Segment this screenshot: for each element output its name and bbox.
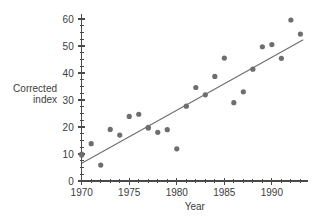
x-axis-tick-labels: 19701975198019851990 (71, 187, 284, 198)
x-tick-label: 1975 (118, 187, 141, 198)
data-point (127, 114, 132, 119)
x-tick-label: 1970 (71, 187, 94, 198)
data-point (89, 141, 94, 146)
y-tick-label: 10 (63, 149, 75, 160)
data-point (155, 130, 160, 135)
scatter-chart: 0102030405060 19701975198019851990 Corre… (0, 0, 321, 221)
x-tick-label: 1990 (261, 187, 284, 198)
data-point (98, 162, 103, 167)
data-point (212, 74, 217, 79)
y-axis-title-line2: index (33, 94, 57, 105)
data-point (288, 17, 293, 22)
data-point (241, 89, 246, 94)
data-point-series (79, 17, 303, 167)
y-axis-title-line1: Corrected (13, 83, 57, 94)
data-point (269, 42, 274, 47)
chart-plot-area: 0102030405060 19701975198019851990 Corre… (0, 0, 321, 221)
data-point (260, 44, 265, 49)
data-point (279, 56, 284, 61)
x-tick-label: 1980 (166, 187, 189, 198)
data-point (108, 127, 113, 132)
data-point (79, 152, 84, 157)
data-point (203, 92, 208, 97)
y-tick-label: 40 (63, 68, 75, 79)
data-point (193, 85, 198, 90)
x-tick-label: 1985 (213, 187, 236, 198)
data-point (136, 112, 141, 117)
y-tick-label: 30 (63, 95, 75, 106)
data-point (174, 146, 179, 151)
x-axis-title: Year (185, 201, 206, 212)
data-point (184, 104, 189, 109)
data-point (146, 125, 151, 130)
y-tick-label: 50 (63, 41, 75, 52)
data-point (250, 67, 255, 72)
y-tick-label: 60 (63, 14, 75, 25)
data-point (165, 127, 170, 132)
data-point (222, 55, 227, 60)
trend-line (82, 40, 304, 163)
data-point (231, 100, 236, 105)
y-tick-label: 0 (68, 176, 74, 187)
y-tick-label: 20 (63, 122, 75, 133)
data-point (298, 31, 303, 36)
y-axis-tick-labels: 0102030405060 (63, 14, 75, 187)
data-point (117, 132, 122, 137)
